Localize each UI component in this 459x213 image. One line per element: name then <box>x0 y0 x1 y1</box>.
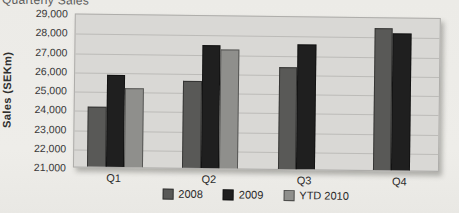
y-tick-label: 28,000 <box>0 26 68 39</box>
legend-label: 2008 <box>178 188 203 200</box>
legend-swatch-icon <box>223 189 234 200</box>
legend-swatch-icon <box>283 189 294 200</box>
legend: 20082009YTD 2010 <box>73 186 439 202</box>
y-tick-label: 27,000 <box>0 45 67 58</box>
y-tick-label: 25,000 <box>0 83 67 96</box>
x-tick-label-q2: Q2 <box>202 173 217 185</box>
bar-2009-q3 <box>296 44 316 169</box>
x-tick-label-q3: Q3 <box>297 174 312 186</box>
legend-item-2009: 2009 <box>223 188 264 200</box>
bar-ytd-2010-q1 <box>124 88 143 167</box>
bar-2009-q4 <box>391 34 411 171</box>
bar-2009-q1 <box>105 74 125 167</box>
bar-2008-q4 <box>373 28 393 171</box>
chart-image: Quarterly Sales Sales (SEKm) 29,00028,00… <box>0 0 459 213</box>
y-tick-label: 29,000 <box>0 6 68 19</box>
bar-2008-q3 <box>278 67 298 169</box>
y-tick-label: 24,000 <box>0 103 67 116</box>
bar-ytd-2010-q2 <box>219 49 239 169</box>
y-tick-label: 23,000 <box>0 122 67 135</box>
y-tick-label: 21,000 <box>0 160 66 173</box>
y-tick-label: 26,000 <box>0 64 67 77</box>
bar-2008-q1 <box>87 107 106 167</box>
x-tick-label-q1: Q1 <box>106 172 121 184</box>
bar-2008-q2 <box>182 81 202 168</box>
legend-item-2008: 2008 <box>162 188 203 200</box>
chart-canvas: Quarterly Sales Sales (SEKm) 29,00028,00… <box>0 0 459 213</box>
y-axis: 29,00028,00027,00026,00025,00024,00023,0… <box>0 13 71 168</box>
legend-label: 2009 <box>239 188 264 200</box>
legend-item-ytd-2010: YTD 2010 <box>283 189 349 202</box>
y-tick-label: 22,000 <box>0 141 66 154</box>
plot-area <box>73 13 441 171</box>
legend-swatch-icon <box>162 188 173 199</box>
x-tick-label-q4: Q4 <box>392 175 407 187</box>
legend-label: YTD 2010 <box>299 189 349 202</box>
bar-2009-q2 <box>201 45 221 168</box>
